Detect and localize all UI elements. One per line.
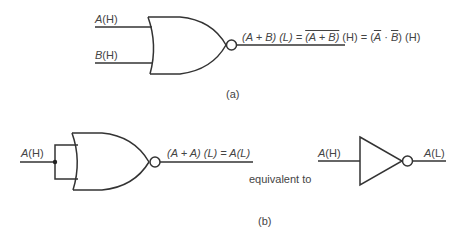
nor-gate-b-icon [72,133,160,190]
caption-a: (a) [226,88,239,100]
inverter-icon [360,137,413,185]
equivalence-text: equivalent to [249,173,311,185]
diagram-canvas: A(H) B(H) (A + B) (L) = (A + B) (H) = (A… [0,0,467,234]
junction-dot-icon [53,160,57,164]
output-expression-a: (A + B) (L) = (A + B) (H) = (A · B) (H) [242,31,420,43]
input-a-label: A(H) [95,13,118,25]
output-expression-b: (A + A) (L) = A(L) [167,147,250,159]
nor-gate-a-icon [148,17,237,74]
inverter-output-label: A(L) [424,147,445,159]
input-b-label: B(H) [95,49,118,61]
inverter-input-label: A(H) [318,147,341,159]
caption-b: (b) [258,215,271,227]
input-a-label-b: A(H) [21,147,44,159]
tied-inputs-wire [55,145,78,179]
